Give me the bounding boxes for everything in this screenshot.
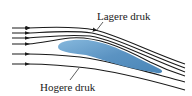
label-higher-pressure: Hogere druk [40, 82, 95, 93]
airfoil-diagram [0, 0, 192, 96]
arrow-icon [25, 26, 30, 29]
leader-line-lower [70, 68, 79, 80]
arrow-icon [25, 52, 30, 55]
arrow-icons [25, 26, 30, 65]
arrow-icon [25, 31, 30, 34]
arrow-icon [25, 36, 30, 39]
arrow-icon [25, 62, 30, 65]
leader-line-upper [96, 22, 103, 31]
arrow-icon [25, 42, 30, 45]
label-lower-pressure: Lagere druk [97, 11, 150, 22]
